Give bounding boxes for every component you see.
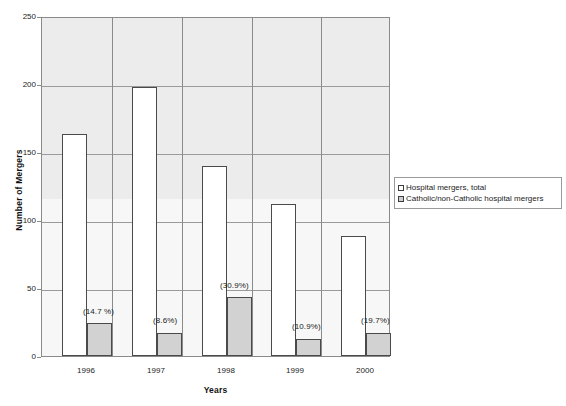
bar-total-1998: [202, 166, 227, 356]
pct-label-1999: (10.9%): [292, 322, 321, 331]
legend-label-catholic: Catholic/non-Catholic hospital mergers: [406, 193, 543, 204]
pct-label-2000: (19.7%): [361, 316, 390, 325]
y-axis-title: Number of Mergers: [14, 135, 24, 245]
bar-total-1999: [271, 204, 296, 356]
chart-legend: Hospital mergers, total Catholic/non-Cat…: [394, 177, 562, 209]
y-tickmark-50: [37, 289, 41, 290]
x-tick-1996: 1996: [56, 366, 116, 375]
category-separator-3: [252, 18, 253, 356]
y-tickmark-250: [37, 17, 41, 18]
y-tickmark-200: [37, 85, 41, 86]
chart-figure: (14.7 %) (8.6%) (30.9%) (10.9%) (19.7%) …: [0, 0, 566, 406]
x-tick-2000: 2000: [335, 366, 395, 375]
legend-item-total: Hospital mergers, total: [398, 182, 558, 193]
bar-catholic-1998: [227, 297, 252, 356]
legend-label-total: Hospital mergers, total: [406, 182, 486, 193]
bar-total-1996: [62, 134, 87, 356]
legend-item-catholic: Catholic/non-Catholic hospital mergers: [398, 193, 558, 204]
gridline-200: [42, 86, 389, 87]
category-separator-2: [182, 18, 183, 356]
bar-catholic-1996: [87, 323, 112, 356]
y-tick-50: 50: [8, 284, 36, 293]
plot-area: (14.7 %) (8.6%) (30.9%) (10.9%) (19.7%): [41, 17, 390, 357]
bar-catholic-1997: [157, 333, 182, 356]
legend-swatch-icon-catholic: [398, 196, 404, 202]
x-tick-1998: 1998: [196, 366, 256, 375]
y-tick-250: 250: [8, 12, 36, 21]
y-tick-0: 0: [8, 352, 36, 361]
x-tick-1997: 1997: [126, 366, 186, 375]
pct-label-1998: (30.9%): [220, 281, 249, 290]
x-axis-title: Years: [0, 385, 431, 395]
gridline-150: [42, 154, 389, 155]
y-tick-200: 200: [8, 80, 36, 89]
y-tickmark-100: [37, 221, 41, 222]
legend-swatch-icon-total: [398, 185, 404, 191]
x-tick-1999: 1999: [265, 366, 325, 375]
category-separator-1: [112, 18, 113, 356]
pct-label-1996: (14.7 %): [83, 307, 114, 316]
bar-total-2000: [341, 236, 366, 356]
category-separator-4: [321, 18, 322, 356]
pct-label-1997: (8.6%): [153, 316, 177, 325]
bar-catholic-1999: [296, 339, 321, 356]
y-tickmark-0: [37, 357, 41, 358]
bar-catholic-2000: [366, 333, 391, 356]
y-tickmark-150: [37, 153, 41, 154]
